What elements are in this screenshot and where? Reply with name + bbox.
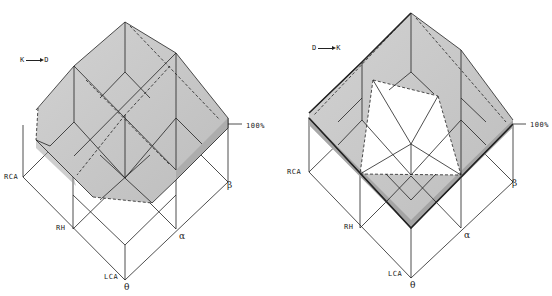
left-diagram-panel: K D 100% RCA RH LCA θ α β xyxy=(0,0,276,296)
axis-label-lca: LCA xyxy=(388,270,402,278)
direction-label-d-to-k: D K xyxy=(312,44,340,52)
axis-label-lca: LCA xyxy=(104,273,118,281)
axis-label-rca: RCA xyxy=(4,173,18,181)
axis-label-theta: θ xyxy=(124,282,129,292)
arrow-right-icon xyxy=(26,60,42,61)
direction-to: K xyxy=(336,44,340,52)
axis-label-theta: θ xyxy=(410,280,415,290)
direction-label-k-to-d: K D xyxy=(20,56,48,64)
axis-label-rca: RCA xyxy=(287,168,301,176)
axis-label-alpha: α xyxy=(464,230,470,240)
direction-from: K xyxy=(20,56,24,64)
axis-label-alpha: α xyxy=(179,231,185,241)
direction-to: D xyxy=(44,56,48,64)
right-diagram-panel: D K 100% RCA RH LCA θ α β xyxy=(276,0,552,296)
left-lattice-diagram xyxy=(0,0,276,296)
direction-from: D xyxy=(312,44,316,52)
axis-label-rh: RH xyxy=(344,223,353,231)
axis-label-beta: β xyxy=(512,178,517,188)
level-label-100: 100% xyxy=(530,121,549,129)
level-label-100: 100% xyxy=(246,122,265,130)
arrow-right-icon xyxy=(318,48,334,49)
axis-label-rh: RH xyxy=(56,224,65,232)
axis-label-beta: β xyxy=(227,180,232,190)
